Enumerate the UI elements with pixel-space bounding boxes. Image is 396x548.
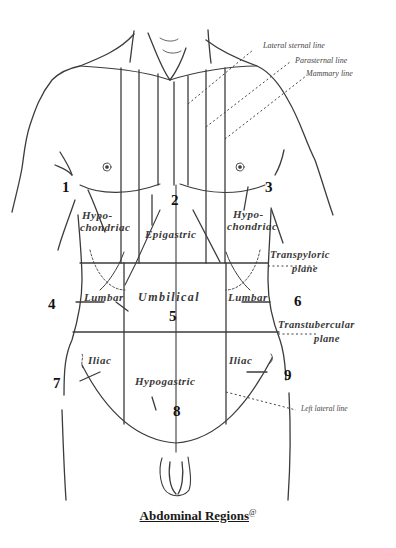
region-5-name: Umbilical [138, 291, 200, 303]
abdominal-regions-diagram: Lateral sternal line Parasternal line Ma… [0, 0, 396, 548]
left-torso-side [64, 215, 82, 395]
region-number-5: 5 [169, 309, 177, 324]
right-torso-side [268, 210, 286, 380]
region-8-name: Hypogastric [135, 376, 196, 387]
region-number-6: 6 [294, 294, 302, 309]
right-thigh [288, 393, 290, 500]
region-2-name: Epigastric [145, 229, 196, 240]
neck-front [148, 33, 186, 80]
neck-right-line [208, 30, 211, 63]
left-thigh [62, 410, 66, 500]
region-7-name: Iliac [88, 355, 111, 366]
figure-caption: Abdominal Regions@ [0, 508, 396, 524]
body-outline-drawing [0, 0, 396, 548]
lateral-sternal-pointer [188, 50, 253, 104]
parasternal-pointer [206, 62, 290, 127]
caption-mark: @ [249, 508, 256, 517]
region-number-4: 4 [48, 297, 56, 312]
region-number-7: 7 [53, 376, 61, 391]
region-3-name-line2: chondriac [227, 221, 277, 232]
transtubercular-label: Transtubercular [278, 320, 355, 331]
transpyloric-label: Transpyloric [270, 250, 330, 261]
transtubercular-plane-word: plane [314, 334, 340, 345]
mammary-pointer [225, 76, 306, 139]
lateral-sternal-line-label: Lateral sternal line [263, 42, 325, 50]
region-number-9: 9 [284, 368, 292, 383]
region-number-8: 8 [173, 404, 181, 419]
transpyloric-plane-word: plane [292, 264, 318, 275]
inguinal-curve [82, 358, 272, 443]
region-number-2: 2 [171, 193, 179, 208]
caption-text: Abdominal Regions [140, 508, 249, 523]
region-1-name-line1: Hypo- [82, 210, 113, 221]
mammary-line-label: Mammary line [306, 70, 353, 78]
region-4-name: Lumbar [84, 292, 124, 303]
region-1-name-line2: chondriac [80, 222, 130, 233]
region-3-name-line1: Hypo- [233, 209, 264, 220]
region-number-1: 1 [62, 180, 70, 195]
region-number-3: 3 [265, 180, 273, 195]
left-lateral-pointer [226, 392, 296, 410]
left-flank-upper [58, 200, 75, 250]
region-9-name: Iliac [229, 355, 252, 366]
parasternal-line-label: Parasternal line [295, 57, 347, 65]
left-lateral-line-label: Left lateral line [301, 405, 348, 413]
region-6-name: Lumbar [228, 292, 268, 303]
left-shoulder-arm [12, 34, 134, 212]
